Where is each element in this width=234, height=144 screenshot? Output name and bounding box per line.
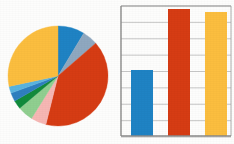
bar-chart-svg [116, 0, 234, 144]
bar-group [131, 9, 227, 136]
bar [205, 12, 227, 136]
bar [131, 70, 153, 136]
pie-slice-group [8, 26, 108, 126]
bar [168, 9, 190, 136]
screenshot-canvas [0, 0, 234, 144]
pie-slice [8, 26, 58, 86]
pie-chart-svg [0, 0, 116, 144]
bar-chart-figure [116, 0, 234, 144]
pie-chart-figure [0, 0, 116, 144]
